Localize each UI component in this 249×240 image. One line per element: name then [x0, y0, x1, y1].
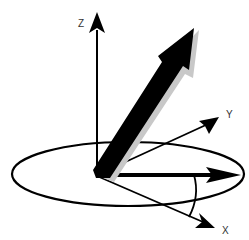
azimuth-angle-arc [189, 175, 196, 217]
z-axis-label: Z [78, 18, 84, 29]
y-axis-label: Y [226, 109, 233, 120]
x-axis [97, 176, 203, 222]
z-axis-arrowhead [89, 12, 105, 33]
y-axis-arrowhead [199, 117, 219, 134]
x-axis-label: X [222, 225, 229, 236]
main-vector [93, 28, 194, 178]
vector-diagram: Z Y X [0, 0, 249, 240]
